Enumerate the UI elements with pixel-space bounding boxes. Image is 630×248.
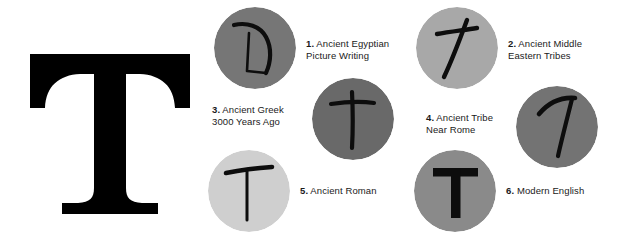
stage-6-label-line1: Modern English <box>517 185 584 196</box>
stage-label-3: 3. Ancient Greek 3000 Years Ago <box>212 104 284 127</box>
stage-3-label-line2: 3000 Years Ago <box>212 116 284 128</box>
stage-2-label-line1: Ancient Middle <box>518 38 582 49</box>
stage-3-label-line1: Ancient Greek <box>222 104 284 115</box>
stage-circle-2 <box>416 7 498 89</box>
stage-1-label-line2: Picture Writing <box>306 50 389 62</box>
stage-5-number: 5. <box>300 185 308 196</box>
stage-circle-4 <box>516 86 598 168</box>
stage-label-6: 6. Modern English <box>506 185 584 197</box>
stage-5-disc <box>208 150 290 232</box>
stage-5-label-line1: Ancient Roman <box>310 185 376 196</box>
stage-2-label-line2: Eastern Tribes <box>508 50 582 62</box>
stage-3-number: 3. <box>212 104 220 115</box>
stage-1-disc <box>214 7 296 89</box>
stage-label-1: 1. Ancient Egyptian Picture Writing <box>306 38 389 61</box>
stage-label-4: 4. Ancient Tribe Near Rome <box>426 112 493 135</box>
stage-circle-6 <box>414 150 496 232</box>
stage-label-2: 2. Ancient Middle Eastern Tribes <box>508 38 582 61</box>
hero-letter-t <box>22 48 198 220</box>
stage-circle-1 <box>214 7 296 89</box>
stage-1-label-line1: Ancient Egyptian <box>316 38 389 49</box>
stage-label-5: 5. Ancient Roman <box>300 185 377 197</box>
letter-evolution-diagram: 1. Ancient Egyptian Picture Writing 2. A… <box>0 0 630 248</box>
stage-4-number: 4. <box>426 112 434 123</box>
stage-circle-5 <box>208 150 290 232</box>
stage-2-number: 2. <box>508 38 516 49</box>
stage-4-label-line2: Near Rome <box>426 124 493 136</box>
stage-circle-3 <box>312 78 394 160</box>
stage-4-label-line1: Ancient Tribe <box>436 112 493 123</box>
stage-1-number: 1. <box>306 38 314 49</box>
stage-6-number: 6. <box>506 185 514 196</box>
